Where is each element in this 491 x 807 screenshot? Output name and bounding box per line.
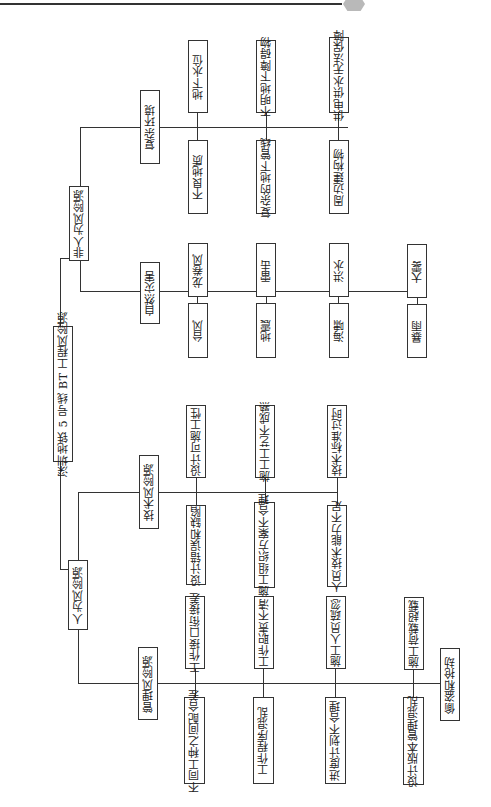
leaf-node: 工作职责不清 — [254, 596, 274, 669]
connector — [60, 569, 69, 570]
leaf-node: 工作程序混乱 — [253, 697, 274, 784]
leaf-node: 雷击 — [256, 243, 276, 297]
connector — [263, 668, 264, 698]
leaf-node: 台风 — [188, 303, 208, 358]
leaf-node: 大雾 — [407, 244, 427, 298]
connector — [410, 683, 441, 684]
technical-risk-node: 技术风险源 — [139, 455, 159, 529]
leaf-node: 施工组织方案不合理 — [254, 502, 275, 588]
connector — [78, 492, 79, 560]
root-label: 深圳地铁 5 号线 BT 工程风险源 — [58, 311, 69, 477]
leaf-node: 不同工种之间配合差 — [184, 697, 205, 784]
root-node: 深圳地铁 5 号线 BT 工程风险源 — [53, 326, 73, 462]
connector — [80, 127, 81, 187]
leaf-node: 地震 — [256, 303, 276, 358]
leaf-node: 地下水位 — [188, 40, 208, 113]
connector — [78, 492, 338, 493]
natural-disaster-node: 自然灾害 — [140, 262, 160, 324]
leaf-node: 供电供水无法保障 — [329, 37, 349, 113]
leaf-node: 人员技术能力不足 — [327, 505, 347, 587]
leaf-node: 工作接口衔接差 — [185, 596, 205, 669]
non-human-risk-node: 非人为风险源 — [69, 186, 89, 261]
complex-env-node: 复杂环境 — [140, 90, 160, 164]
leaf-node: 不明地下障碍物 — [256, 40, 276, 113]
leaf-node: 偷盗和抢劫 — [440, 648, 460, 721]
connector — [197, 112, 198, 142]
diamond-ornament-icon — [343, 0, 365, 11]
connector — [80, 291, 418, 292]
leaf-node: 龙卷风 — [188, 243, 208, 297]
leaf-node: 施工工艺不成熟 — [255, 405, 275, 478]
human-risk-node: 人为风险源 — [68, 560, 88, 630]
leaf-node: 设计版本管理混乱 — [403, 697, 424, 785]
leaf-node: 不良地质 — [188, 140, 208, 214]
leaf-node: 周边建构物 — [329, 140, 349, 214]
connector — [80, 260, 81, 292]
connector — [196, 477, 197, 507]
leaf-node: 暴雨 — [407, 304, 427, 358]
leaf-node: 复杂的地下管线 — [256, 140, 276, 214]
leaf-node: 施工荷载超载 — [404, 597, 424, 670]
leaf-node: 技术标准过时 — [327, 405, 347, 478]
leaf-node: 洪水 — [329, 243, 349, 297]
leaf-node: 设计错误和缺陷 — [186, 505, 206, 585]
leaf-node: 海啸 — [329, 303, 349, 358]
header-rule — [0, 3, 342, 5]
leaf-node: 施工人员疏忽 — [326, 596, 346, 669]
connector — [80, 127, 348, 128]
leaf-node: 设计可施工性 — [186, 405, 206, 478]
connector — [335, 668, 336, 698]
connector — [78, 630, 79, 683]
leaf-node: 进度计划不合理 — [325, 697, 346, 784]
connector — [78, 683, 410, 684]
connector — [60, 258, 70, 259]
management-risk-node: 管理风险源 — [138, 647, 158, 720]
